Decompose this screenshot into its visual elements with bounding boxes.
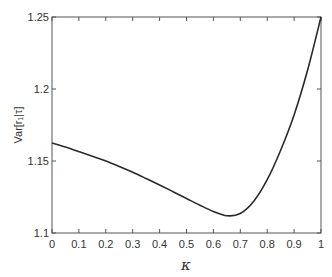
x-tick-label: 0	[49, 238, 55, 250]
x-tick-label: 0.5	[179, 238, 194, 250]
x-tick-label: 0.8	[260, 238, 275, 250]
x-tick-label: 1	[318, 238, 324, 250]
plot-area	[52, 17, 321, 233]
x-tick-label: 0.2	[98, 238, 113, 250]
x-tick-label: 0.3	[125, 238, 140, 250]
y-tick-label: 1.25	[28, 11, 49, 23]
x-tick-labels: 00.10.20.30.40.50.60.70.80.91	[49, 238, 324, 250]
x-tick-label: 0.9	[286, 238, 301, 250]
y-tick-label: 1.1	[34, 227, 49, 239]
x-tick-label: 0.6	[206, 238, 221, 250]
y-axis-label: Var[r₁|τ]	[12, 107, 24, 144]
line-chart: 00.10.20.30.40.50.60.70.80.91 1.11.151.2…	[0, 0, 332, 277]
x-tick-label: 0.7	[233, 238, 248, 250]
y-tick-label: 1.2	[34, 83, 49, 95]
y-tick-label: 1.15	[28, 155, 49, 167]
x-axis-label: κ	[180, 256, 191, 274]
x-tick-label: 0.1	[71, 238, 86, 250]
y-tick-labels: 1.11.151.21.25	[28, 11, 49, 239]
x-tick-label: 0.4	[152, 238, 167, 250]
